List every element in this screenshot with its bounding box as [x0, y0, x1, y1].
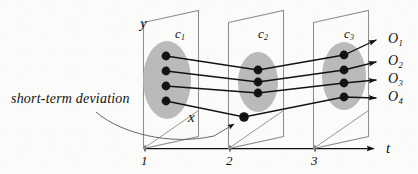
output-label-o4: O4	[388, 90, 402, 104]
cluster-label-c2-base: c	[258, 26, 264, 41]
plane-t1	[143, 11, 199, 149]
output-label-o4-subscript: 4	[398, 96, 402, 106]
cluster-label-c1-subscript: 1	[181, 33, 185, 42]
axis-label-x: x	[188, 110, 195, 125]
output-label-o3: O3	[388, 72, 402, 86]
axis-label-t: t	[386, 141, 390, 156]
output-label-o3-base: O	[388, 71, 398, 86]
axis-label-y: y	[140, 16, 147, 31]
cluster-label-c3: c3	[344, 27, 354, 40]
output-label-o4-base: O	[388, 89, 398, 104]
diagram-canvas	[0, 0, 418, 174]
temporal-cluster-diagram: y x t c1 c2 c3 O1 O2 O3 O4 1 2 3 short-t…	[0, 0, 418, 174]
annotation-label-short-term-deviation: short-term deviation	[11, 92, 130, 106]
cluster-label-c2-subscript: 2	[264, 33, 268, 42]
plane-t3	[314, 11, 369, 149]
cluster-label-c1-base: c	[175, 26, 181, 41]
output-label-o1: O1	[388, 32, 402, 46]
cluster-label-c3-subscript: 3	[350, 33, 354, 42]
cluster-label-c1: c1	[175, 27, 185, 40]
output-label-o1-subscript: 1	[398, 38, 402, 48]
output-label-o2-base: O	[388, 53, 398, 68]
tick-label-2: 2	[226, 154, 233, 167]
tick-label-1: 1	[141, 154, 148, 167]
tick-label-3: 3	[311, 154, 318, 167]
cluster-label-c3-base: c	[344, 26, 350, 41]
time-axis	[145, 146, 374, 152]
output-label-o2: O2	[388, 54, 402, 68]
cluster-label-c2: c2	[258, 27, 268, 40]
output-label-o2-subscript: 2	[398, 60, 402, 70]
output-label-o1-base: O	[388, 31, 398, 46]
output-label-o3-subscript: 3	[398, 78, 402, 88]
